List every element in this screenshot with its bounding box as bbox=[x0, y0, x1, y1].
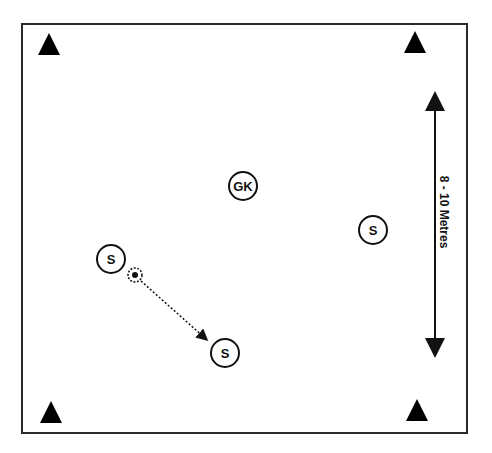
player-label: GK bbox=[233, 179, 253, 194]
player-striker-left: S bbox=[97, 245, 125, 273]
drill-diagram: 8 - 10 Metres GK S S S bbox=[0, 0, 492, 453]
distance-label: 8 - 10 Metres bbox=[437, 176, 451, 249]
player-goalkeeper: GK bbox=[229, 172, 257, 200]
player-striker-bottom: S bbox=[211, 339, 239, 367]
cone-top-right-icon bbox=[404, 31, 426, 53]
cone-bottom-left-icon bbox=[40, 401, 62, 423]
ball-icon bbox=[128, 268, 142, 282]
cone-top-left-icon bbox=[38, 33, 60, 55]
player-striker-right: S bbox=[359, 216, 387, 244]
player-label: S bbox=[369, 223, 378, 238]
pass-arrow bbox=[141, 281, 206, 339]
player-label: S bbox=[107, 252, 116, 267]
cone-bottom-right-icon bbox=[406, 399, 428, 421]
player-label: S bbox=[221, 346, 230, 361]
pitch-boundary bbox=[22, 24, 467, 433]
